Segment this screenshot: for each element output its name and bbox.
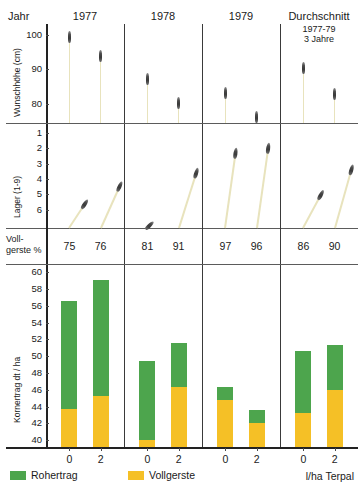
lodging-ytick-5: 6 xyxy=(37,204,42,215)
column-header-3-sub2: 3 Jahre xyxy=(304,34,334,44)
yield-ytick-1: 58 xyxy=(31,283,42,294)
panel-separator-vollgerste-2 xyxy=(202,228,203,264)
bar-segment-vollgerste-4 xyxy=(217,400,233,447)
panel-separator-lodging-3 xyxy=(280,124,281,228)
x-tickmark-2 xyxy=(147,448,148,451)
vollgerste-value-7: 90 xyxy=(329,240,341,252)
ear-height-6 xyxy=(302,62,306,74)
lodging-ytick-4-mark xyxy=(46,194,49,195)
legend-swatch-vollgerste xyxy=(128,471,144,480)
height-ytick-1: 90 xyxy=(31,63,42,74)
x-tickmark-7 xyxy=(335,448,336,451)
panel-separator-yield-3 xyxy=(280,265,281,447)
yield-ytick-7-mark xyxy=(46,390,49,391)
x-tickmark-6 xyxy=(303,448,304,451)
bar-segment-vollgerste-3 xyxy=(171,387,187,447)
x-tick-label-1: 2 xyxy=(98,453,104,465)
bar-segment-vollgerste-7 xyxy=(327,390,343,447)
height-ytick-1-mark xyxy=(46,69,49,70)
legend-label-vollgerste: Vollgerste xyxy=(149,469,195,481)
ear-lodging-0 xyxy=(80,199,89,210)
vollgerste-label-line2: gerste % xyxy=(6,245,42,255)
bar-1 xyxy=(93,280,109,447)
height-ytick-2: 80 xyxy=(31,98,42,109)
panel-separator-lodging-1 xyxy=(124,124,125,228)
yield-ytick-6-mark xyxy=(46,373,49,374)
row-label-jahr: Jahr xyxy=(8,10,29,22)
stalk-height-1 xyxy=(100,57,101,123)
yield-ytick-9-mark xyxy=(46,423,49,424)
panel-separator-height-3 xyxy=(280,24,281,123)
panel-separator-height-2 xyxy=(202,24,203,123)
panel-separator-yield-2 xyxy=(202,265,203,447)
bar-segment-rohertrag-7 xyxy=(327,345,343,390)
column-header-2: 1979 xyxy=(229,10,253,22)
x-tick-label-2: 0 xyxy=(144,453,150,465)
yield-ytick-9: 42 xyxy=(31,417,42,428)
lodging-bottom-rule xyxy=(6,228,358,229)
bar-segment-vollgerste-5 xyxy=(249,423,265,447)
x-tickmark-1 xyxy=(101,448,102,451)
bar-segment-rohertrag-0 xyxy=(61,301,77,409)
yield-ytick-5-mark xyxy=(46,356,49,357)
x-tick-label-3: 2 xyxy=(176,453,182,465)
stalk-lodging-3 xyxy=(178,173,196,229)
bar-segment-vollgerste-1 xyxy=(93,396,109,447)
ear-lodging-6 xyxy=(317,189,325,200)
panel-separator-vollgerste-3 xyxy=(280,228,281,264)
x-tickmark-3 xyxy=(179,448,180,451)
ear-height-0 xyxy=(68,31,72,43)
lodging-ytick-5-mark xyxy=(46,210,49,211)
vollgerste-bottom-rule xyxy=(6,264,358,265)
lodging-ytick-2: 3 xyxy=(37,158,42,169)
x-tickmark-4 xyxy=(225,448,226,451)
stalk-lodging-4 xyxy=(225,152,237,228)
lodging-ytick-1: 2 xyxy=(37,142,42,153)
vollgerste-value-1: 76 xyxy=(95,240,107,252)
ear-height-2 xyxy=(146,73,150,85)
lodging-ytick-0: 1 xyxy=(37,127,42,138)
ear-lodging-7 xyxy=(348,164,354,176)
stalk-height-0 xyxy=(69,38,70,123)
x-tick-label-5: 2 xyxy=(254,453,260,465)
bar-segment-rohertrag-2 xyxy=(139,361,155,440)
yield-ytick-2-mark xyxy=(46,306,49,307)
panel-separator-yield-1 xyxy=(124,265,125,447)
yield-ytick-10: 40 xyxy=(31,434,42,445)
bar-segment-rohertrag-5 xyxy=(249,410,265,423)
x-tick-label-6: 0 xyxy=(300,453,306,465)
lodging-ytick-3: 4 xyxy=(37,173,42,184)
ear-height-7 xyxy=(333,88,337,100)
stalk-lodging-5 xyxy=(256,148,268,228)
ear-height-1 xyxy=(99,50,103,62)
yield-ytick-4: 52 xyxy=(31,333,42,344)
vollgerste-value-4: 97 xyxy=(220,240,232,252)
height-ytick-0-mark xyxy=(46,35,49,36)
x-tickmark-5 xyxy=(257,448,258,451)
lodging-ytick-2-mark xyxy=(46,164,49,165)
bar-7 xyxy=(327,345,343,447)
height-y-axis xyxy=(46,24,48,123)
lodging-ytick-1-mark xyxy=(46,148,49,149)
x-tick-label-0: 0 xyxy=(66,453,72,465)
bar-0 xyxy=(61,301,77,447)
ear-height-5 xyxy=(255,111,259,123)
x-tick-label-7: 2 xyxy=(332,453,338,465)
yield-ytick-0: 60 xyxy=(31,266,42,277)
bar-4 xyxy=(217,387,233,447)
vollgerste-value-5: 96 xyxy=(251,240,263,252)
yield-ytick-6: 48 xyxy=(31,367,42,378)
yield-ytick-2: 56 xyxy=(31,300,42,311)
height-bottom-rule xyxy=(6,123,358,124)
lodging-ytick-0-mark xyxy=(46,133,49,134)
bar-5 xyxy=(249,410,265,447)
x-tickmark-0 xyxy=(69,448,70,451)
yield-ytick-7: 46 xyxy=(31,384,42,395)
height-ytick-2-mark xyxy=(46,104,49,105)
height-ytick-0: 100 xyxy=(26,29,42,40)
yield-ytick-8-mark xyxy=(46,407,49,408)
lodging-y-axis xyxy=(46,124,48,228)
ear-lodging-3 xyxy=(192,167,199,179)
ear-lodging-5 xyxy=(265,143,270,154)
